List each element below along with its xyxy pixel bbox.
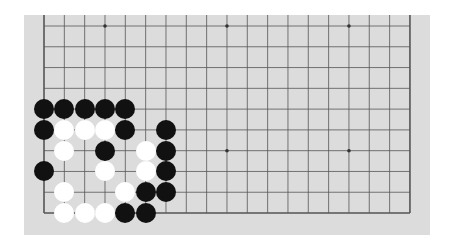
white-stone: [54, 182, 74, 202]
white-stone: [54, 120, 74, 140]
black-stone: [34, 99, 54, 119]
black-stone: [156, 182, 176, 202]
black-stone: [95, 141, 115, 161]
black-stone: [95, 99, 115, 119]
black-stone: [34, 161, 54, 181]
black-stone: [136, 203, 156, 223]
white-stone: [95, 120, 115, 140]
white-stone: [54, 203, 74, 223]
white-stone: [75, 120, 95, 140]
white-stone: [115, 182, 135, 202]
black-stone: [54, 99, 74, 119]
black-stone: [115, 203, 135, 223]
black-stone: [156, 141, 176, 161]
star-point-icon: [103, 24, 107, 28]
white-stone: [136, 161, 156, 181]
white-stone: [95, 203, 115, 223]
black-stone: [34, 120, 54, 140]
white-stone: [136, 141, 156, 161]
black-stone: [115, 120, 135, 140]
white-stone: [75, 203, 95, 223]
star-point-icon: [225, 149, 229, 153]
star-point-icon: [347, 149, 351, 153]
black-stone: [115, 99, 135, 119]
black-stone: [136, 182, 156, 202]
black-stone: [75, 99, 95, 119]
black-stone: [156, 120, 176, 140]
white-stone: [95, 161, 115, 181]
star-point-icon: [347, 24, 351, 28]
star-point-icon: [225, 24, 229, 28]
white-stone: [54, 141, 74, 161]
black-stone: [156, 161, 176, 181]
